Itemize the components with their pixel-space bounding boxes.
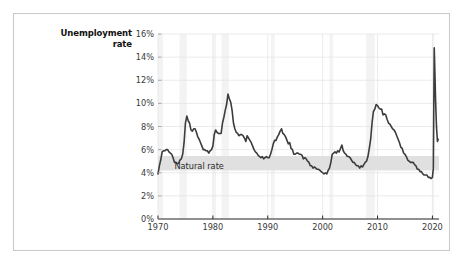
plot-area bbox=[14, 14, 451, 252]
unemployment-rate-chart: Unemployment rate 0%2%4%6%8%10%12%14%16%… bbox=[14, 14, 451, 252]
figure-frame: Unemployment rate 0%2%4%6%8%10%12%14%16%… bbox=[13, 13, 450, 251]
natural-rate-annotation-label: Natural rate bbox=[174, 161, 223, 171]
gridlines bbox=[158, 34, 439, 219]
